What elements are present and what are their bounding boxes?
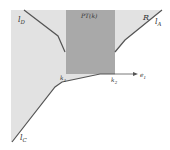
label-k2: k2 — [111, 76, 118, 85]
label-l-c: lC — [20, 133, 28, 143]
label-r: R — [142, 13, 149, 22]
label-pt-k: PT(k) — [80, 12, 98, 19]
label-e1: e1 — [140, 71, 146, 80]
pt-region — [66, 10, 115, 74]
label-l-a: lA — [155, 17, 162, 27]
diagram-canvas: lD PT(k) R lA k1 k2 e1 lC — [0, 0, 170, 150]
arrowhead-icon — [133, 72, 138, 76]
